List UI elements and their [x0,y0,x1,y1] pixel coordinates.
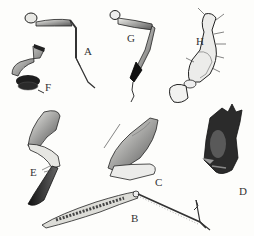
label-b: B [131,213,138,224]
insect-legs-figure: A B C D E F G H [0,0,254,236]
label-d: D [239,186,247,197]
leg-d [202,104,242,174]
label-f: F [45,82,51,93]
leg-g [110,11,155,103]
label-a: A [84,46,92,57]
label-h: H [196,36,204,47]
label-e: E [30,167,37,178]
leg-e [28,111,60,206]
label-g: G [127,33,135,44]
leg-f [12,44,45,93]
leg-c [104,118,158,180]
leg-b [42,191,210,230]
leg-h [170,8,227,103]
label-c: C [155,177,162,188]
